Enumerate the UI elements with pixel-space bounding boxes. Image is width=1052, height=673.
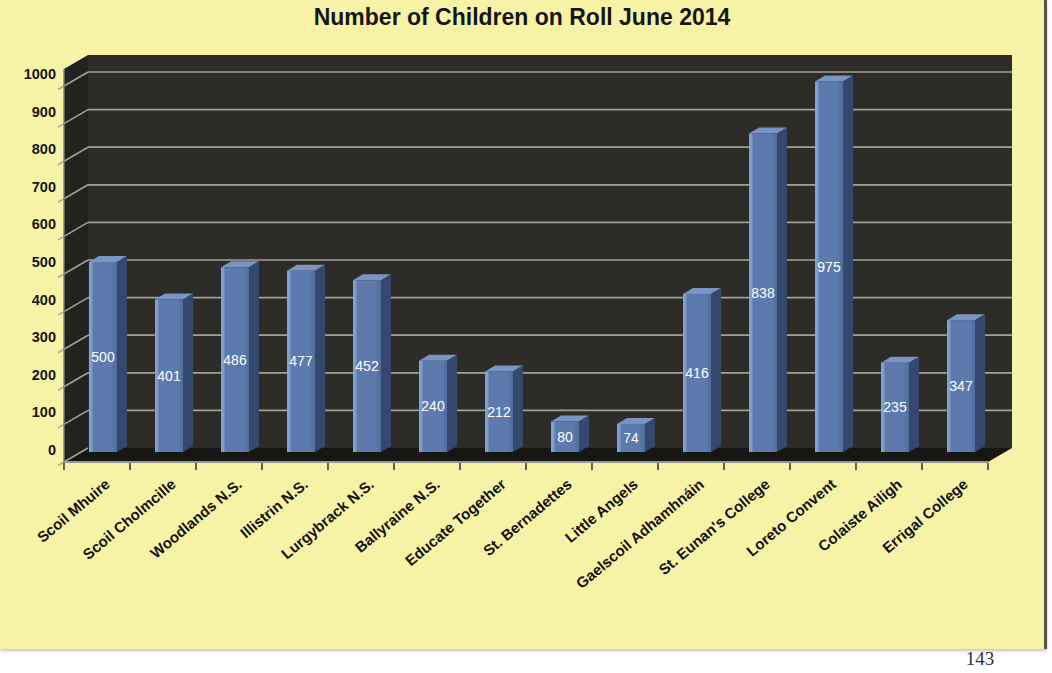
y-tick-label: 900 [32, 104, 56, 120]
bar-value-label: 240 [421, 398, 445, 414]
y-tick-label: 200 [32, 367, 56, 383]
bar-chart: 0100200300400500600700800900100050040148… [0, 0, 1052, 673]
bar-side [249, 261, 259, 452]
bar-side [315, 265, 325, 452]
page-number: 143 [935, 648, 1025, 670]
y-tick-label: 600 [32, 216, 56, 232]
y-tick-label: 0 [48, 442, 56, 458]
bar-side [183, 294, 193, 452]
bar-side [579, 416, 589, 452]
bar-value-label: 347 [949, 378, 973, 394]
bar-side [909, 357, 919, 452]
y-tick-label: 1000 [24, 66, 56, 82]
y-tick-label: 100 [32, 404, 56, 420]
bar-side [117, 256, 127, 452]
bar-value-label: 416 [685, 365, 709, 381]
plot-floor [64, 448, 1012, 462]
bar-value-label: 235 [883, 399, 907, 415]
bar-value-label: 486 [223, 352, 247, 368]
bar-value-label: 74 [623, 430, 639, 446]
x-tick-label: St. Eunan's College [655, 475, 773, 578]
bar-value-label: 452 [355, 358, 379, 374]
bar-side [447, 355, 457, 452]
bar-value-label: 838 [751, 285, 775, 301]
bar-value-label: 477 [289, 353, 313, 369]
bar-side [513, 365, 523, 452]
bar-side [975, 314, 985, 452]
bar-side [777, 128, 787, 452]
bar-value-label: 975 [817, 259, 841, 275]
scanned-chart-sheet: Number of Children on Roll June 2014 010… [0, 0, 1047, 649]
y-tick-label: 400 [32, 292, 56, 308]
bar-side [381, 274, 391, 452]
x-tick-label: Gaelscoil Adhamhnáin [573, 475, 707, 592]
bar-side [645, 418, 655, 452]
y-tick-label: 700 [32, 179, 56, 195]
bar-value-label: 500 [91, 349, 115, 365]
y-tick-label: 300 [32, 329, 56, 345]
bar-value-label: 212 [487, 404, 511, 420]
y-tick-label: 500 [32, 254, 56, 270]
bar-value-label: 401 [157, 368, 181, 384]
bar-value-label: 80 [557, 429, 573, 445]
bar-side [711, 288, 721, 452]
y-tick-label: 800 [32, 141, 56, 157]
bar-side [843, 76, 853, 453]
